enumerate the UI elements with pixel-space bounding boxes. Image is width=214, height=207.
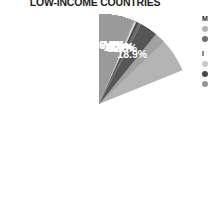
legend-group-title: M <box>202 14 214 23</box>
pie-slice-label: 6.4% <box>99 39 124 51</box>
legend-item[interactable] <box>202 69 214 78</box>
legend: MI <box>202 14 214 89</box>
page-title: LOW-INCOME COUNTRIES <box>0 0 190 8</box>
legend-swatch-icon <box>202 36 208 42</box>
legend-item[interactable] <box>202 79 214 88</box>
legend-group-title: I <box>202 49 214 58</box>
legend-swatch-icon <box>202 71 208 77</box>
legend-item[interactable] <box>202 34 214 43</box>
chart-screenshot: LOW-INCOME COUNTRIES 18.9%12.8%11.1%10.8… <box>0 0 214 207</box>
legend-item[interactable] <box>202 24 214 33</box>
legend-swatch-icon <box>202 81 208 87</box>
pie-chart: 18.9%12.8%11.1%10.8%10.6%7.7%7.7%7.2%6.8… <box>8 13 190 195</box>
legend-swatch-icon <box>202 26 208 32</box>
legend-item[interactable] <box>202 59 214 68</box>
legend-swatch-icon <box>202 61 208 67</box>
pie-chart-svg: 18.9%12.8%11.1%10.8%10.6%7.7%7.7%7.2%6.8… <box>8 13 190 195</box>
